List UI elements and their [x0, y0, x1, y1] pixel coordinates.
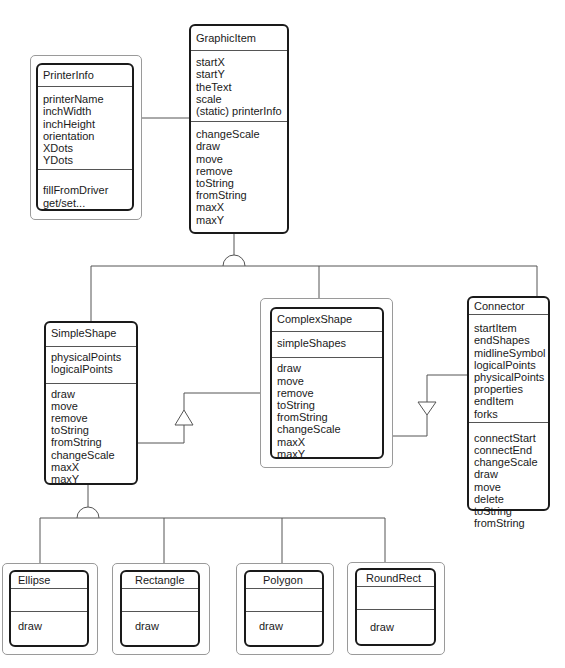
method: draw [277, 362, 377, 374]
class-rectangle[interactable]: Rectangle draw [120, 570, 200, 647]
attribute: physicalPoints [474, 371, 543, 383]
method: fromString [277, 411, 377, 423]
attribute: theText [196, 81, 282, 93]
class-graphicitem[interactable]: GraphicItem startX startY theText scale … [189, 24, 289, 234]
class-printerinfo[interactable]: PrinterInfo printerName inchWidth inchHe… [36, 63, 134, 211]
class-name: Rectangle [122, 572, 198, 589]
inheritance-semicircle-icon [223, 255, 245, 266]
methods-section: draw move remove toString fromString cha… [272, 358, 382, 463]
method: move [51, 400, 131, 412]
attributes-section: startItem endShapes midlineSymbol logica… [469, 315, 548, 423]
method: maxX [51, 461, 131, 473]
method: maxY [277, 448, 377, 460]
class-name: Connector [469, 298, 548, 315]
method: move [277, 375, 377, 387]
attribute: printerName [43, 93, 127, 105]
method: changeScale [196, 128, 282, 140]
class-polygon[interactable]: Polygon draw [244, 570, 324, 647]
inheritance-semicircle-icon [77, 507, 99, 518]
method: fillFromDriver [43, 184, 127, 196]
method: changeScale [277, 423, 377, 435]
method: connectEnd [474, 444, 543, 456]
method: move [474, 481, 543, 493]
class-name: GraphicItem [191, 26, 287, 51]
method: toString [196, 177, 282, 189]
class-name: PrinterInfo [38, 65, 132, 87]
method: fromString [196, 189, 282, 201]
attribute: YDots [43, 154, 127, 166]
class-connector[interactable]: Connector startItem endShapes midlineSym… [467, 296, 550, 511]
method: maxY [51, 473, 131, 485]
attributes-section [246, 589, 322, 612]
attribute: scale [196, 93, 282, 105]
attributes-section [122, 589, 198, 612]
class-simpleshape[interactable]: SimpleShape physicalPoints logicalPoints… [44, 321, 138, 485]
method: toString [51, 424, 131, 436]
class-name: RoundRect [357, 570, 434, 587]
attribute: simpleShapes [277, 337, 377, 349]
methods-section: draw [122, 612, 198, 632]
class-name: ComplexShape [272, 309, 382, 332]
method: draw [370, 621, 421, 633]
method: maxX [277, 436, 377, 448]
class-ellipse[interactable]: Ellipse draw [9, 570, 89, 647]
method: delete [474, 493, 543, 505]
methods-section: draw [357, 610, 434, 633]
method: draw [18, 620, 80, 632]
attribute: midlineSymbol [474, 347, 543, 359]
method: remove [196, 165, 282, 177]
method: remove [277, 387, 377, 399]
attribute: forks [474, 408, 543, 420]
attribute: startItem [474, 322, 543, 334]
attribute: inchHeight [43, 118, 127, 130]
class-name: SimpleShape [46, 323, 136, 347]
methods-section: draw [246, 612, 322, 632]
method: draw [196, 140, 282, 152]
attributes-section: printerName inchWidth inchHeight orienta… [38, 87, 132, 170]
attribute: endShapes [474, 334, 543, 346]
class-roundrect[interactable]: RoundRect draw [355, 568, 436, 646]
method: maxX [196, 201, 282, 213]
attributes-section [11, 589, 87, 612]
attributes-section: startX startY theText scale (static) pri… [191, 51, 287, 122]
method: changeScale [474, 456, 543, 468]
method: fromString [51, 436, 131, 448]
method: draw [51, 388, 131, 400]
method: draw [259, 620, 309, 632]
method: toString [277, 399, 377, 411]
attributes-section [357, 587, 434, 610]
methods-section: fillFromDriver get/set... [38, 170, 132, 211]
method: changeScale [51, 449, 131, 461]
class-name: Polygon [246, 572, 322, 589]
method: fromString [474, 517, 543, 529]
methods-section: connectStart connectEnd changeScale draw… [469, 423, 548, 533]
method: toString [474, 505, 543, 517]
method: maxY [196, 214, 282, 226]
method: get/set... [43, 197, 127, 209]
attribute: XDots [43, 142, 127, 154]
attribute: inchWidth [43, 105, 127, 117]
class-name: Ellipse [11, 572, 87, 589]
method: draw [474, 468, 543, 480]
method: draw [135, 620, 185, 632]
attribute: physicalPoints [51, 351, 131, 363]
attributes-section: simpleShapes [272, 332, 382, 358]
attribute: startY [196, 68, 282, 80]
attribute: properties [474, 383, 543, 395]
attribute: startX [196, 56, 282, 68]
methods-section: draw [11, 612, 87, 632]
attribute: endItem [474, 395, 543, 407]
aggregation-triangle-icon [418, 402, 436, 415]
attribute: logicalPoints [474, 359, 543, 371]
methods-section: draw move remove toString fromString cha… [46, 384, 136, 489]
methods-section: changeScale draw move remove toString fr… [191, 122, 287, 229]
attribute: logicalPoints [51, 363, 131, 375]
attributes-section: physicalPoints logicalPoints [46, 347, 136, 383]
attribute: orientation [43, 130, 127, 142]
attribute: (static) printerInfo [196, 105, 282, 117]
method: remove [51, 412, 131, 424]
class-complexshape[interactable]: ComplexShape simpleShapes draw move remo… [270, 307, 384, 459]
aggregation-triangle-icon [175, 410, 193, 425]
method: connectStart [474, 432, 543, 444]
method: move [196, 153, 282, 165]
